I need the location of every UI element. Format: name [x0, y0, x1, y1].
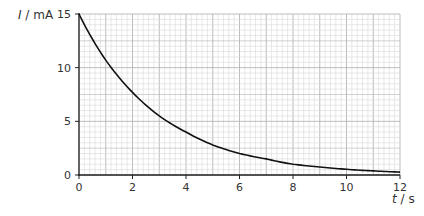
x-tick-label: 6	[236, 181, 243, 194]
x-tick-label: 4	[183, 181, 190, 194]
tick-labels: 024681012051015	[57, 8, 407, 194]
x-tick-label: 8	[290, 181, 297, 194]
x-tick-label: 10	[340, 181, 354, 194]
y-tick-label: 15	[57, 8, 71, 21]
axes	[75, 13, 400, 179]
x-axis-label: t / s	[392, 192, 415, 206]
x-tick-label: 0	[76, 181, 83, 194]
x-tick-label: 2	[129, 181, 136, 194]
grid	[79, 14, 400, 175]
y-tick-label: 5	[64, 115, 71, 128]
y-tick-label: 10	[57, 62, 71, 75]
y-tick-label: 0	[64, 169, 71, 182]
current-decay-chart: 024681012051015 I / mA t / s	[0, 0, 424, 216]
y-axis-label: I / mA	[18, 8, 54, 22]
